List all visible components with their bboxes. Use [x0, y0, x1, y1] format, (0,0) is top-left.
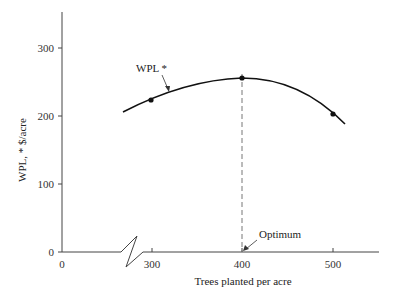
y-tick-label-200: 200 [38, 110, 55, 122]
y-tick-label-300: 300 [38, 42, 55, 54]
arrow-head-icon [165, 86, 170, 92]
marker-400 [239, 75, 244, 80]
y-tick-label-0: 0 [49, 246, 55, 258]
curve-label: WPL * [136, 62, 167, 74]
y-tick-label-100: 100 [38, 178, 55, 190]
marker-300 [148, 97, 153, 102]
wpl-curve [123, 78, 345, 124]
x-tick-label-0: 0 [59, 258, 65, 270]
x-tick-label-500: 500 [325, 258, 342, 270]
chart: 300 200 100 0 0 300 400 500 Trees plante… [0, 0, 397, 305]
x-axis-label: Trees planted per acre [194, 275, 291, 287]
arrow-head-icon [243, 245, 249, 251]
x-tick-label-300: 300 [144, 258, 161, 270]
x-tick-label-400: 400 [234, 258, 251, 270]
optimum-label: Optimum [259, 228, 302, 240]
y-axis-label: WPL, * $/acre [16, 118, 28, 182]
marker-500 [330, 111, 335, 116]
